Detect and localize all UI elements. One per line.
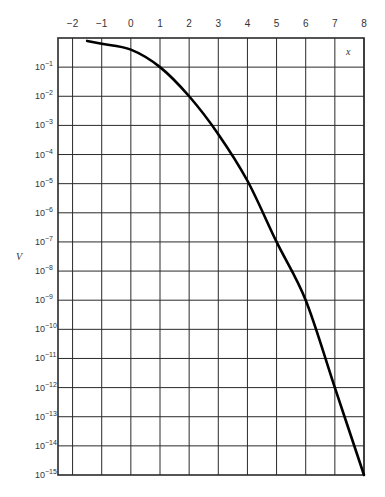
x-tick-label: −2 bbox=[67, 18, 79, 29]
y-tick-label: 10−1 bbox=[35, 60, 53, 72]
y-tick-label: 10−3 bbox=[35, 118, 53, 130]
x-axis-label: x bbox=[345, 46, 351, 57]
y-tick-label: 10−5 bbox=[35, 177, 53, 189]
y-tick-label: 10−15 bbox=[35, 468, 57, 480]
y-tick-label: 10−14 bbox=[35, 439, 57, 451]
y-tick-label: 10−2 bbox=[35, 89, 53, 101]
x-tick-label: −1 bbox=[96, 18, 108, 29]
y-tick-label: 10−10 bbox=[35, 322, 57, 334]
x-tick-label: 1 bbox=[157, 18, 163, 29]
log-plot: −2−1012345678 10−110−210−310−410−510−610… bbox=[0, 0, 385, 497]
x-tick-label: 7 bbox=[332, 18, 338, 29]
data-curve bbox=[87, 41, 364, 475]
y-axis-label: V bbox=[16, 251, 24, 262]
y-tick-label: 10−11 bbox=[35, 351, 56, 363]
plot-grid bbox=[58, 38, 364, 475]
plot-frame bbox=[58, 38, 364, 475]
x-tick-label: 5 bbox=[274, 18, 280, 29]
y-tick-label: 10−8 bbox=[35, 264, 53, 276]
x-tick-label: 8 bbox=[361, 18, 367, 29]
x-tick-label: 2 bbox=[186, 18, 192, 29]
x-tick-label: 4 bbox=[245, 18, 251, 29]
y-tick-label: 10−6 bbox=[35, 206, 53, 218]
y-tick-label: 10−12 bbox=[35, 381, 57, 393]
x-axis-ticks: −2−1012345678 bbox=[67, 18, 367, 29]
x-tick-label: 0 bbox=[128, 18, 134, 29]
y-tick-label: 10−9 bbox=[35, 293, 53, 305]
y-tick-label: 10−13 bbox=[35, 410, 57, 422]
y-tick-label: 10−7 bbox=[35, 235, 53, 247]
x-tick-label: 6 bbox=[303, 18, 309, 29]
x-tick-label: 3 bbox=[216, 18, 222, 29]
y-tick-label: 10−4 bbox=[35, 148, 53, 160]
y-axis-ticks: 10−110−210−310−410−510−610−710−810−910−1… bbox=[35, 60, 57, 480]
